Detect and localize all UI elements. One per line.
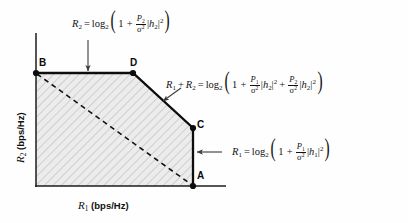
x-axis-subscript: 1	[85, 205, 89, 213]
r2-sigma-sup: 2	[142, 25, 145, 31]
capacity-region-figure: B D C A R1 (bps/Hz) R2 (bps/Hz) R2=log2(…	[0, 0, 408, 223]
r1-fraction: P1σ2	[295, 142, 307, 163]
formula-sum-rate: R1+R2=log2(1+P1σ2|h2|2+P2σ2|h2|2)	[166, 75, 324, 96]
r2-one: 1	[117, 18, 125, 29]
r2-plus: +	[125, 18, 135, 29]
formula-r1: R1=log2(1+P1σ2|h1|2)	[232, 142, 332, 163]
sum-p2-sub: 2	[295, 78, 298, 84]
point-label-A: A	[197, 170, 204, 181]
sum-lhs-plus: +	[176, 79, 186, 90]
r2-p-sub: 2	[142, 17, 145, 23]
r1-p-sub: 1	[302, 145, 305, 151]
sum-equals: =	[196, 79, 206, 90]
point-label-D: D	[130, 57, 137, 68]
r1-one: 1	[277, 146, 285, 157]
r1-log: log	[252, 146, 265, 157]
r2-fraction: P2σ2	[135, 14, 147, 35]
figure-canvas	[0, 0, 408, 223]
r1-sigma-sup: 2	[302, 153, 305, 159]
vertex-B	[33, 70, 39, 76]
r2-log-base: 2	[105, 23, 108, 30]
sum-plus-a: +	[238, 79, 248, 90]
sum-fraction-a: P1σ2	[248, 75, 260, 96]
vertex-D	[130, 70, 136, 76]
point-label-C: C	[197, 119, 204, 130]
vertex-C	[190, 125, 196, 131]
y-axis-unit: (bps/Hz)	[15, 112, 26, 149]
formula-r2: R2=log2(1+P2σ2|h2|2)	[72, 14, 172, 35]
sum-log-base: 2	[219, 84, 222, 91]
sum-plus-b: +	[277, 79, 287, 90]
r1-equals: =	[242, 146, 252, 157]
sum-h-b-sup: 2	[312, 78, 315, 85]
point-label-B: B	[39, 57, 46, 68]
x-axis-symbol: R	[78, 199, 85, 211]
r1-log-base: 2	[265, 151, 268, 158]
r1-h-sup: 2	[320, 145, 323, 152]
sum-sigma-b-sup: 2	[294, 86, 297, 92]
vertex-A	[190, 183, 196, 189]
sum-p1-sub: 1	[256, 78, 259, 84]
y-axis-symbol: R	[14, 156, 26, 163]
x-axis-unit: (bps/Hz)	[91, 200, 128, 211]
r1-plus: +	[285, 146, 295, 157]
y-axis-label: R2 (bps/Hz)	[14, 112, 28, 163]
r2-h-sup: 2	[160, 17, 163, 24]
sum-sigma-a-sup: 2	[255, 86, 258, 92]
sum-fraction-b: P2σ2	[287, 75, 299, 96]
x-axis-label: R1 (bps/Hz)	[78, 199, 129, 213]
sum-log: log	[206, 79, 219, 90]
r2-equals: =	[82, 18, 92, 29]
y-axis-subscript: 2	[20, 153, 28, 157]
r2-log: log	[92, 18, 105, 29]
